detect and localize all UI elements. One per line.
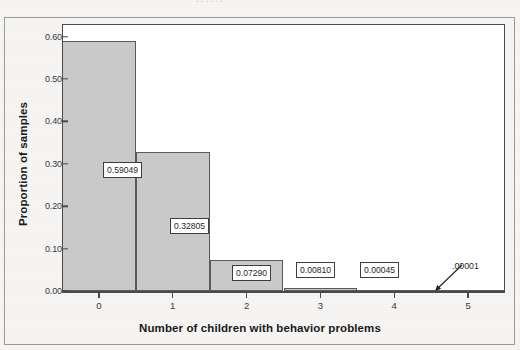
data-label-3: 0.00810	[296, 262, 335, 278]
x-tick-mark-0	[98, 292, 99, 298]
y-axis-title: Proportion of samples	[17, 64, 29, 264]
bar-chart: 0.000.100.200.300.400.500.60 Proportion …	[0, 0, 520, 350]
x-tick-label-4: 4	[379, 300, 409, 311]
y-tick-label-0.20: 0.20	[26, 201, 62, 211]
x-tick-label-5: 5	[453, 300, 483, 311]
y-tick-label-0.50: 0.50	[26, 74, 62, 84]
y-tick-label-0.10: 0.10	[26, 244, 62, 254]
x-tick-mark-5	[467, 292, 468, 298]
y-tick-mark-0.60	[62, 36, 68, 37]
x-axis-baseline	[62, 291, 505, 293]
x-tick-label-2: 2	[232, 300, 262, 311]
y-tick-mark-0.50	[62, 78, 68, 79]
x-tick-label-0: 0	[84, 300, 114, 311]
x-tick-mark-4	[394, 292, 395, 298]
y-tick-mark-0.30	[62, 163, 68, 164]
data-label-2: 0.07290	[232, 265, 271, 281]
x-tick-mark-1	[172, 292, 173, 298]
y-tick-label-0.00: 0.00	[26, 286, 62, 296]
y-tick-label-0.60: 0.60	[26, 32, 62, 42]
y-tick-label-0.30: 0.30	[26, 159, 62, 169]
callout-label: .00001	[452, 261, 479, 271]
x-axis-title: Number of children with behavior problem…	[0, 322, 520, 334]
y-tick-mark-0.40	[62, 121, 68, 122]
data-label-0: 0.59049	[103, 162, 142, 178]
y-tick-mark-0.20	[62, 206, 68, 207]
plot-area	[63, 25, 504, 292]
x-tick-mark-2	[246, 292, 247, 298]
data-label-4: 0.00045	[360, 262, 399, 278]
y-tick-label-0.40: 0.40	[26, 116, 62, 126]
y-tick-mark-0.00	[62, 290, 68, 291]
x-tick-label-3: 3	[305, 300, 335, 311]
data-label-1: 0.32805	[170, 218, 209, 234]
x-tick-label-1: 1	[158, 300, 188, 311]
x-tick-mark-3	[320, 292, 321, 298]
y-tick-mark-0.10	[62, 248, 68, 249]
